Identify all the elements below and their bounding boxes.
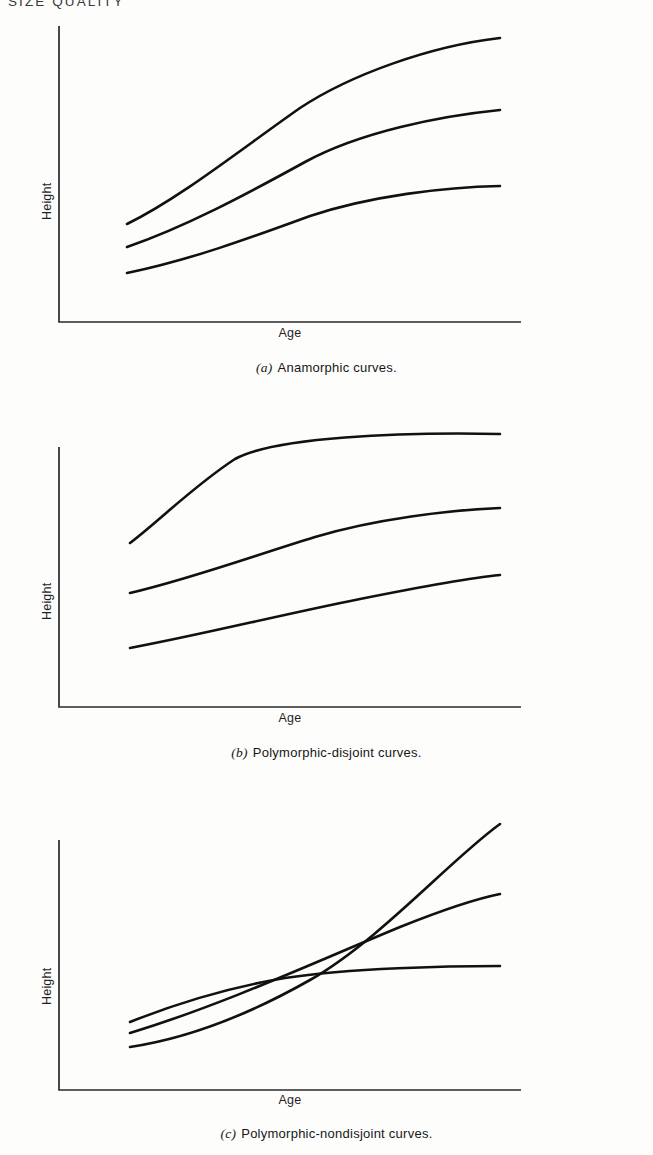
y-axis-label-c: Height bbox=[40, 968, 54, 1005]
plot-area-a: Height Age bbox=[0, 20, 653, 332]
plot-area-b: Height Age bbox=[0, 415, 653, 715]
running-head: SIZE QUALITY bbox=[8, 0, 125, 9]
x-axis-label-a: Age bbox=[0, 326, 580, 340]
chart-a-svg bbox=[0, 20, 653, 332]
curve-a-middle bbox=[127, 110, 500, 247]
figure-page: SIZE QUALITY Height Age (a)Anamorphic cu… bbox=[0, 0, 653, 1155]
caption-c-text: Polymorphic-nondisjoint curves. bbox=[241, 1126, 432, 1141]
caption-b-label: (b) bbox=[231, 745, 248, 760]
curve-a-lower bbox=[127, 186, 500, 273]
figure-b: Height Age (b)Polymorphic-disjoint curve… bbox=[0, 415, 653, 715]
curve-b-middle bbox=[130, 508, 500, 593]
curve-b-lower bbox=[130, 575, 500, 648]
y-axis-label-b: Height bbox=[40, 583, 54, 620]
figure-c: Height Age (c)Polymorphic-nondisjoint cu… bbox=[0, 790, 653, 1100]
caption-a: (a)Anamorphic curves. bbox=[0, 360, 653, 376]
caption-c: (c)Polymorphic-nondisjoint curves. bbox=[0, 1126, 653, 1142]
caption-a-text: Anamorphic curves. bbox=[278, 360, 397, 375]
curve-b-upper bbox=[130, 434, 500, 543]
caption-b-text: Polymorphic-disjoint curves. bbox=[253, 745, 422, 760]
chart-b-svg bbox=[0, 415, 653, 715]
plot-area-c: Height Age bbox=[0, 790, 653, 1100]
figure-a: Height Age (a)Anamorphic curves. bbox=[0, 20, 653, 332]
axes-b bbox=[59, 447, 521, 707]
chart-c-svg bbox=[0, 790, 653, 1100]
x-axis-label-b: Age bbox=[0, 711, 580, 725]
caption-b: (b)Polymorphic-disjoint curves. bbox=[0, 745, 653, 761]
y-axis-label-a: Height bbox=[40, 183, 54, 220]
axes-a bbox=[59, 26, 521, 322]
axes-c bbox=[59, 840, 521, 1090]
caption-a-label: (a) bbox=[256, 360, 273, 375]
curve-c-linear bbox=[130, 894, 500, 1033]
curve-a-upper bbox=[127, 38, 500, 224]
x-axis-label-c: Age bbox=[0, 1093, 580, 1107]
caption-c-label: (c) bbox=[220, 1126, 236, 1141]
